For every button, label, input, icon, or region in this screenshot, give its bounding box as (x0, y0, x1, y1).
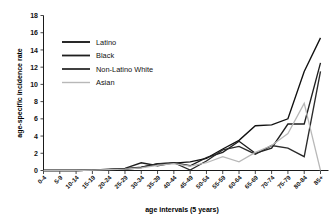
legend-label-non-latino-white: Non-Latino White (96, 65, 153, 74)
x-tick-label: 50-54 (194, 173, 211, 190)
y-tick-label: 2 (34, 150, 38, 157)
x-tick-label: 35-39 (145, 173, 162, 190)
series-line-black (44, 63, 321, 171)
legend-label-asian: Asian (96, 78, 115, 87)
incidence-rate-line-chart: 0246810121416180-45-910-1415-1920-2425-2… (0, 0, 335, 224)
x-tick-label: 45-49 (178, 173, 195, 190)
x-tick-label: 60-64 (227, 173, 244, 190)
y-tick-label: 14 (30, 47, 38, 54)
x-tick-label: 75-79 (276, 173, 293, 190)
x-tick-label: 70-74 (259, 173, 276, 190)
legend-label-latino: Latino (96, 38, 116, 47)
y-tick-label: 8 (34, 98, 38, 105)
y-tick-label: 16 (30, 29, 38, 36)
y-tick-label: 4 (34, 133, 38, 140)
x-tick-label: 65-69 (243, 173, 260, 190)
y-axis-title: age-specific incidence rate (16, 48, 24, 138)
y-tick-label: 12 (30, 64, 38, 71)
x-tick-label: 5-9 (52, 173, 64, 185)
x-tick-label: 40-44 (162, 173, 179, 190)
x-tick-label: 10-14 (64, 173, 81, 190)
x-tick-label: 0-4 (36, 173, 48, 185)
y-tick-label: 10 (30, 81, 38, 88)
x-tick-label: 80-84 (292, 173, 309, 190)
y-tick-label: 0 (34, 167, 38, 174)
y-tick-label: 18 (30, 12, 38, 19)
legend-label-black: Black (96, 51, 114, 60)
y-tick-label: 6 (34, 115, 38, 122)
series-line-latino (44, 38, 321, 171)
x-tick-label: 20-24 (96, 173, 113, 190)
x-tick-label: 85+ (312, 173, 325, 186)
series-line-non-latino-white (44, 71, 321, 170)
chart-container: 0246810121416180-45-910-1415-1920-2425-2… (0, 0, 335, 224)
x-tick-label: 30-34 (129, 173, 146, 190)
x-axis-title: age intervals (5 years) (145, 206, 219, 214)
x-tick-label: 15-19 (80, 173, 97, 190)
x-tick-label: 55-59 (211, 173, 228, 190)
x-tick-label: 25-29 (113, 173, 130, 190)
